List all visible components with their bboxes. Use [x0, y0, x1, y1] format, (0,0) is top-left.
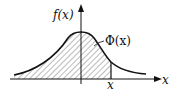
y-axis-arrow-icon	[78, 4, 84, 12]
area-label: Φ(x)	[105, 34, 131, 48]
x-marker-label: x	[107, 78, 114, 90]
normal-curve-diagram: f(x) Φ(x) x x	[0, 0, 170, 90]
x-axis-label: x	[162, 73, 169, 87]
y-axis-label: f(x)	[52, 8, 74, 22]
x-axis-arrow-icon	[154, 76, 162, 82]
shaded-area-phi	[0, 0, 170, 90]
